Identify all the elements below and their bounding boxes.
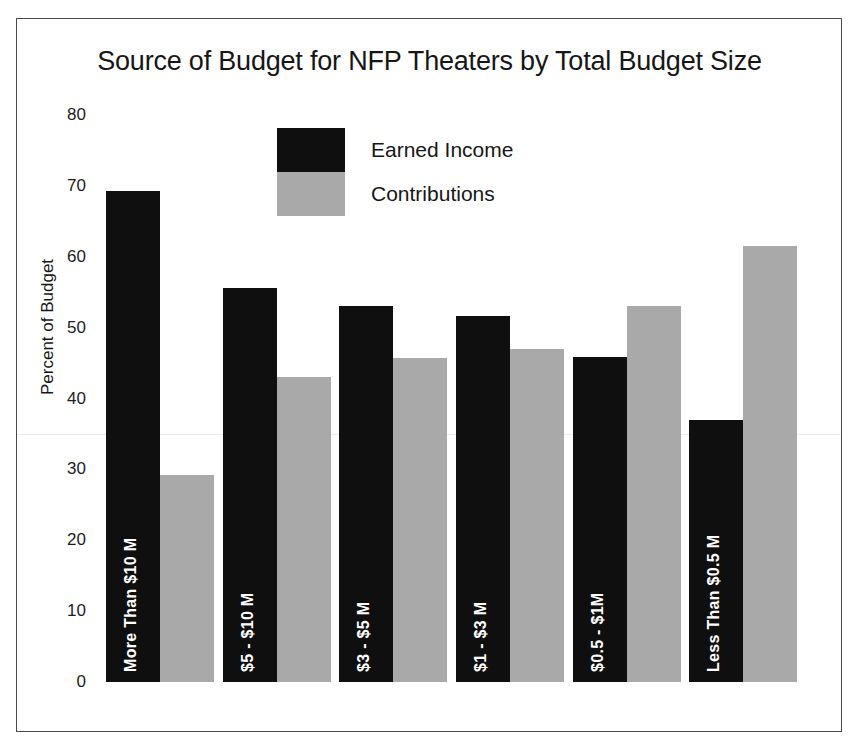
y-tick-label-20: 20 [67, 530, 86, 550]
legend-swatch-contributions [277, 172, 345, 216]
bar-contributions [160, 475, 214, 682]
category-label: $1 - $3 M [472, 602, 490, 672]
bar-group: $0.5 - $1M [573, 115, 681, 682]
category-label: $3 - $5 M [355, 602, 373, 672]
y-tick-label-50: 50 [67, 318, 86, 338]
bar-group: More Than $10 M [106, 115, 214, 682]
bar-contributions [743, 246, 797, 682]
bar-contributions [393, 358, 447, 682]
chart-figure: Source of Budget for NFP Theaters by Tot… [0, 0, 859, 749]
y-tick-label-70: 70 [67, 176, 86, 196]
category-label: More Than $10 M [122, 538, 140, 672]
chart-title: Source of Budget for NFP Theaters by Tot… [0, 46, 859, 77]
y-tick-label-80: 80 [67, 105, 86, 125]
chart-legend: Earned Income Contributions [277, 128, 567, 216]
category-label: $5 - $10 M [239, 593, 257, 672]
y-axis-title: Percent of Budget [38, 259, 58, 395]
bar-contributions [510, 349, 564, 682]
y-tick-label-0: 0 [77, 672, 86, 692]
legend-item-earned-income: Earned Income [277, 128, 567, 172]
bar-contributions [627, 306, 681, 682]
y-tick-label-60: 60 [67, 247, 86, 267]
y-tick-label-10: 10 [67, 601, 86, 621]
legend-label-earned-income: Earned Income [371, 138, 513, 162]
y-tick-label-40: 40 [67, 389, 86, 409]
legend-swatch-earned-income [277, 128, 345, 172]
bar-contributions [277, 377, 331, 682]
category-label: $0.5 - $1M [589, 593, 607, 672]
legend-item-contributions: Contributions [277, 172, 567, 216]
category-label: Less Than $0.5 M [705, 535, 723, 672]
y-tick-label-30: 30 [67, 459, 86, 479]
legend-label-contributions: Contributions [371, 182, 495, 206]
bar-group: Less Than $0.5 M [689, 115, 797, 682]
